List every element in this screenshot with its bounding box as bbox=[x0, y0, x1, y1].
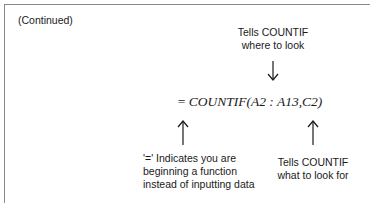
what-annotation-line-1: Tells COUNTIF bbox=[263, 156, 363, 169]
equals-annotation-line-3: instead of inputting data bbox=[143, 178, 255, 191]
equals-annotation-line-2: beginning a function bbox=[143, 165, 255, 178]
equals-sign-annotation: '=' Indicates you are beginning a functi… bbox=[143, 152, 255, 191]
what-to-look-for-annotation: Tells COUNTIF what to look for bbox=[263, 156, 363, 182]
where-annotation-line-1: Tells COUNTIF bbox=[223, 26, 323, 39]
frame-left-border bbox=[4, 4, 5, 203]
countif-formula: = COUNTIF(A2 : A13,C2) bbox=[150, 94, 350, 110]
continued-label: (Continued) bbox=[18, 14, 73, 27]
what-annotation-line-2: what to look for bbox=[263, 169, 363, 182]
down-arrow-icon bbox=[266, 61, 280, 81]
where-annotation-line-2: where to look bbox=[223, 39, 323, 52]
formula-expression: COUNTIF(A2 : A13,C2) bbox=[189, 94, 323, 109]
equals-annotation-line-1: '=' Indicates you are bbox=[143, 152, 255, 165]
formula-equals-sign: = bbox=[178, 94, 186, 109]
where-to-look-annotation: Tells COUNTIF where to look bbox=[223, 26, 323, 52]
up-arrow-icon bbox=[176, 120, 190, 146]
frame-top-border bbox=[4, 4, 370, 5]
up-arrow-icon bbox=[306, 120, 320, 146]
